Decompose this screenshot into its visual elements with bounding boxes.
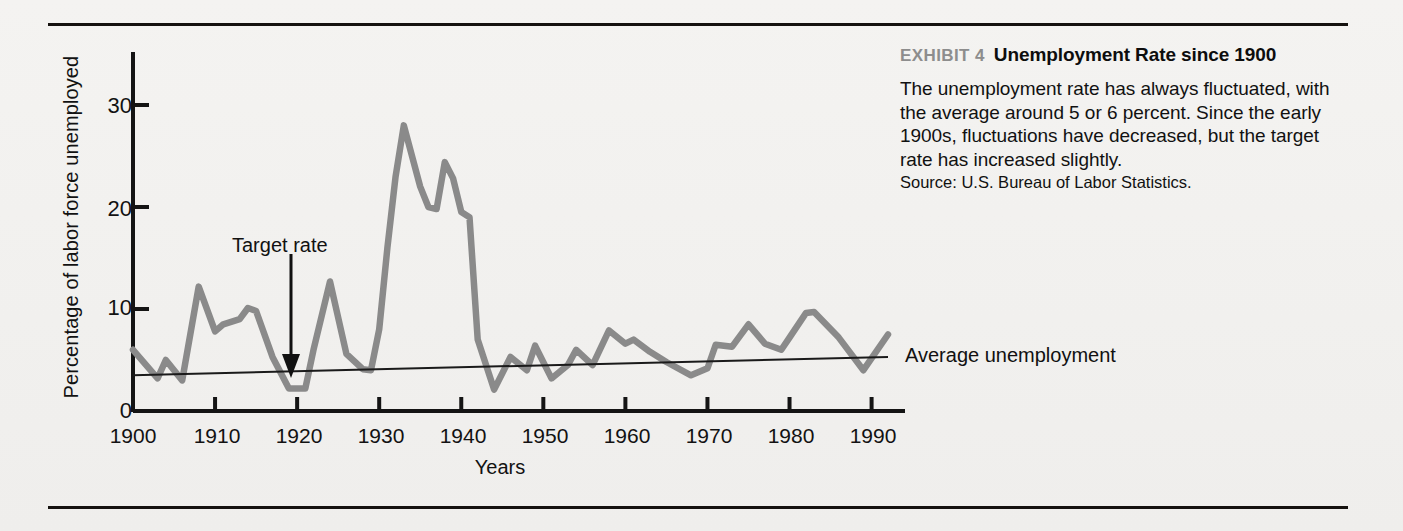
- bottom-rule: [48, 506, 1348, 509]
- exhibit-figure: Percentage of labor force unemployed 30 …: [0, 0, 1403, 531]
- chart-plot-area: Percentage of labor force unemployed 30 …: [0, 0, 960, 470]
- axes: [133, 52, 905, 412]
- chart-svg: [0, 0, 960, 470]
- exhibit-heading: EXHIBIT 4 Unemployment Rate since 1900: [900, 44, 1352, 66]
- exhibit-title: Unemployment Rate since 1900: [994, 44, 1276, 66]
- caption-source-text: Source: U.S. Bureau of Labor Statistics.: [900, 172, 1352, 193]
- caption-body-text: The unemployment rate has always fluctua…: [900, 77, 1352, 171]
- exhibit-number: EXHIBIT 4: [900, 46, 985, 66]
- target-rate-arrow: [282, 254, 300, 378]
- exhibit-caption: EXHIBIT 4 Unemployment Rate since 1900 T…: [900, 44, 1352, 193]
- unemployment-series-line: [133, 125, 888, 389]
